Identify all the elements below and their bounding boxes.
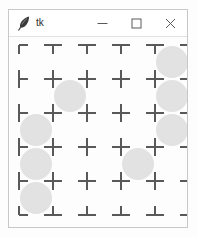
minimize-icon: [97, 18, 108, 29]
grid-circle[interactable]: [20, 114, 52, 146]
grid-canvas[interactable]: [9, 37, 187, 227]
maximize-icon: [131, 18, 142, 29]
minimize-button[interactable]: [85, 10, 119, 36]
window-title: tk: [36, 18, 44, 28]
maximize-button[interactable]: [119, 10, 153, 36]
grid-circle[interactable]: [156, 46, 187, 78]
close-icon: [165, 18, 176, 29]
grid-canvas-svg[interactable]: [9, 37, 187, 227]
close-button[interactable]: [153, 10, 187, 36]
circle-layer: [20, 46, 187, 214]
grid-circle[interactable]: [156, 80, 187, 112]
window-controls: [85, 10, 187, 36]
tk-feather-icon: [17, 16, 30, 31]
grid-circle[interactable]: [54, 80, 86, 112]
tk-window: tk: [8, 9, 188, 228]
app-root: tk: [0, 0, 197, 237]
grid-circle[interactable]: [122, 148, 154, 180]
grid-circle[interactable]: [20, 148, 52, 180]
grid-circle[interactable]: [156, 114, 187, 146]
grid-circle[interactable]: [20, 182, 52, 214]
title-bar[interactable]: tk: [9, 10, 187, 37]
title-bar-left: tk: [9, 16, 44, 31]
